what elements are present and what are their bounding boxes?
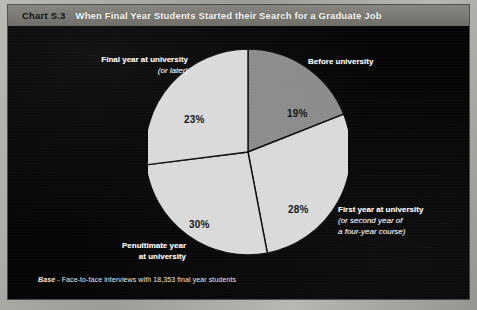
callout-before-university-main: Before university — [308, 56, 428, 67]
pie-value-label-before-university: 19% — [287, 108, 308, 119]
callout-final-year-main: Final year at university — [56, 54, 188, 65]
callout-first-year-main: First year at university — [338, 204, 469, 215]
callout-penultimate-main: Penultimate year — [58, 240, 186, 251]
callout-label-penultimate-year: Penultimate year at university — [58, 240, 186, 262]
chart-plot-area: 23% 19% 28% 30% Final year at university… — [8, 26, 469, 299]
callout-first-year-sub2: a four-year course) — [338, 226, 469, 237]
footnote-base-label: Base — [38, 276, 55, 283]
callout-first-year-sub1: (or second year of — [338, 215, 469, 226]
callout-label-before-university: Before university — [308, 56, 428, 67]
chart-frame: Chart S.3 When Final Year Students Start… — [8, 5, 469, 299]
callout-label-first-year: First year at university (or second year… — [338, 204, 469, 237]
callout-label-final-year: Final year at university (or later) — [56, 54, 188, 76]
footnote-text: - Face-to-face interviews with 18,353 fi… — [55, 276, 236, 283]
callout-final-year-sub: (or later) — [56, 65, 188, 76]
chart-title-bar: Chart S.3 When Final Year Students Start… — [8, 5, 469, 26]
pie-value-label-final-year: 23% — [184, 114, 205, 125]
pie-value-label-first-year: 28% — [288, 204, 309, 215]
chart-number: Chart S.3 — [22, 10, 66, 21]
page-title: When Final Year Students Started their S… — [76, 10, 382, 21]
scanned-page: Chart S.3 When Final Year Students Start… — [0, 0, 477, 310]
callout-penultimate-main2: at university — [58, 251, 186, 262]
pie-value-label-penultimate-year: 30% — [189, 219, 210, 230]
chart-footnote: Base - Face-to-face interviews with 18,3… — [38, 276, 236, 283]
